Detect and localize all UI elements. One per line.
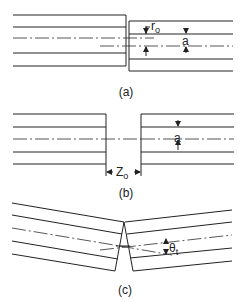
panel-a-r0-dimension [146,26,150,56]
panel-b-right-fiber [141,114,234,176]
panel-b-z0-label: Zo [116,166,128,182]
panel-a-r0-label: ro [151,20,160,36]
diagram-canvas [0,0,241,302]
fiber-misalignment-diagram: ro a (a) a Zo (b) θt (c) [0,0,241,302]
panel-c-theta-label: θt [169,242,178,258]
panel-c-caption: (c) [118,283,132,297]
panel-b-a-label: a [174,132,181,144]
panel-c-left-fiber [12,203,124,271]
panel-b-caption: (b) [119,186,134,200]
panel-a-left-fiber [13,15,154,66]
panel-a-a-label: a [182,35,189,47]
panel-a-right-fiber [100,21,233,71]
panel-a-caption: (a) [119,85,134,99]
